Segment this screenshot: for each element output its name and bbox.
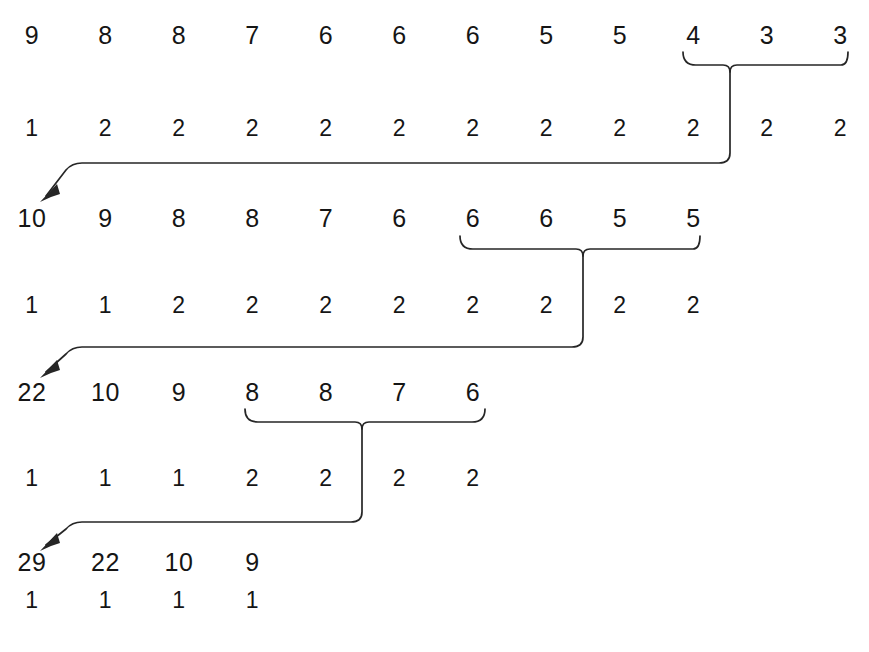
value-cell: 5 — [613, 206, 627, 231]
value-cell: 6 — [392, 23, 406, 48]
arrowhead-2 — [40, 360, 60, 378]
count-cell: 1 — [99, 294, 112, 317]
brace-stage2 — [460, 236, 700, 256]
count-cell: 1 — [246, 589, 259, 612]
count-cell: 2 — [687, 294, 700, 317]
value-cell: 8 — [245, 206, 259, 231]
value-cell: 6 — [539, 206, 553, 231]
count-cell: 2 — [172, 117, 185, 140]
value-cell: 6 — [392, 206, 406, 231]
count-cell: 2 — [540, 117, 553, 140]
value-cell: 29 — [18, 550, 47, 575]
count-cell: 1 — [172, 467, 185, 490]
count-cell: 1 — [25, 117, 38, 140]
count-cell: 2 — [319, 117, 332, 140]
count-cell: 2 — [466, 294, 479, 317]
count-cell: 2 — [319, 467, 332, 490]
count-cell: 2 — [99, 117, 112, 140]
count-cell: 2 — [687, 117, 700, 140]
count-cell: 2 — [319, 294, 332, 317]
value-cell: 22 — [91, 550, 120, 575]
connector-3 — [40, 427, 362, 551]
value-cell: 6 — [319, 23, 333, 48]
value-cell: 3 — [833, 23, 847, 48]
value-cell: 6 — [466, 206, 480, 231]
value-cell: 22 — [18, 380, 47, 405]
brace-stage3 — [245, 409, 485, 429]
count-cell: 2 — [613, 117, 626, 140]
value-cell: 8 — [245, 380, 259, 405]
count-cell: 2 — [540, 294, 553, 317]
connector-2 — [40, 254, 583, 378]
value-cell: 8 — [172, 206, 186, 231]
count-cell: 2 — [834, 117, 847, 140]
count-cell: 1 — [25, 589, 38, 612]
count-cell: 1 — [172, 589, 185, 612]
value-cell: 3 — [760, 23, 774, 48]
value-cell: 8 — [319, 380, 333, 405]
count-cell: 1 — [25, 467, 38, 490]
value-cell: 10 — [91, 380, 120, 405]
count-cell: 1 — [99, 467, 112, 490]
count-cell: 2 — [172, 294, 185, 317]
diagram-canvas: 988766655433 122222222222 10988766655 11… — [0, 0, 869, 652]
value-cell: 4 — [686, 23, 700, 48]
value-cell: 10 — [18, 206, 47, 231]
value-cell: 6 — [466, 380, 480, 405]
value-cell: 9 — [25, 23, 39, 48]
value-cell: 7 — [392, 380, 406, 405]
value-cell: 10 — [165, 550, 194, 575]
count-cell: 2 — [246, 467, 259, 490]
value-cell: 9 — [98, 206, 112, 231]
count-cell: 2 — [393, 294, 406, 317]
count-cell: 1 — [25, 294, 38, 317]
count-cell: 2 — [246, 117, 259, 140]
brace-stage1 — [683, 52, 848, 72]
count-cell: 2 — [246, 294, 259, 317]
value-cell: 5 — [686, 206, 700, 231]
value-cell: 5 — [539, 23, 553, 48]
count-cell: 2 — [393, 467, 406, 490]
value-cell: 8 — [98, 23, 112, 48]
value-cell: 9 — [245, 550, 259, 575]
value-cell: 8 — [172, 23, 186, 48]
count-cell: 1 — [99, 589, 112, 612]
count-cell: 2 — [393, 117, 406, 140]
value-cell: 9 — [172, 380, 186, 405]
count-cell: 2 — [466, 117, 479, 140]
connector-overlay — [0, 0, 869, 652]
count-cell: 2 — [760, 117, 773, 140]
value-cell: 7 — [245, 23, 259, 48]
value-cell: 6 — [466, 23, 480, 48]
value-cell: 5 — [613, 23, 627, 48]
count-cell: 2 — [466, 467, 479, 490]
count-cell: 2 — [613, 294, 626, 317]
value-cell: 7 — [319, 206, 333, 231]
arrowhead-1 — [40, 184, 60, 202]
